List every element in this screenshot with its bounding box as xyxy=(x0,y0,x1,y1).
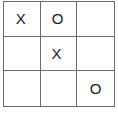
cell-r2c2[interactable]: X xyxy=(41,37,78,72)
cell-mark-r2c2: X xyxy=(51,46,61,61)
cell-r1c1[interactable]: X xyxy=(4,2,41,37)
cell-r2c1[interactable] xyxy=(4,37,41,72)
cell-mark-r1c1: X xyxy=(16,11,26,26)
cell-r1c2[interactable]: O xyxy=(41,2,78,37)
cell-r1c3[interactable] xyxy=(77,2,114,37)
board-container: X O X O xyxy=(0,0,118,115)
cell-mark-r3c3: O xyxy=(90,81,102,96)
cell-r3c1[interactable] xyxy=(4,71,41,106)
cell-r3c2[interactable] xyxy=(41,71,78,106)
cell-mark-r1c2: O xyxy=(52,11,64,26)
tic-tac-toe-board: X O X O xyxy=(3,1,115,107)
cell-r3c3[interactable]: O xyxy=(77,71,114,106)
cell-r2c3[interactable] xyxy=(77,37,114,72)
